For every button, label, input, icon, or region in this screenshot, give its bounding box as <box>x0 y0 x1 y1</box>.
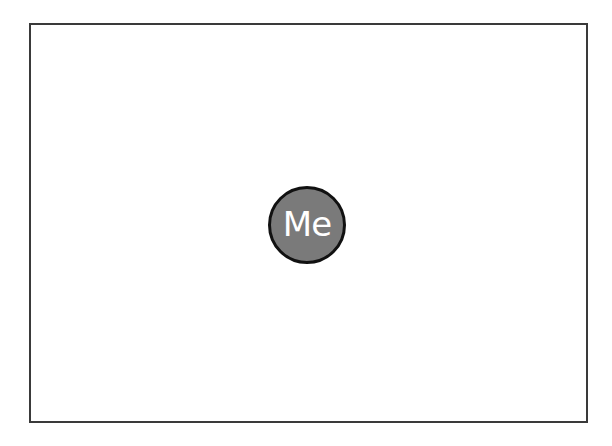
me-node-label: Me <box>283 207 331 241</box>
me-node-circle: Me <box>268 186 346 264</box>
